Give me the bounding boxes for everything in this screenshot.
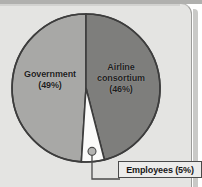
pie-label-airline-consortium-name-line2: consortium — [92, 73, 150, 84]
pie-label-airline-consortium-value: (46%) — [92, 84, 150, 95]
pie-callout-employees: Employees (5%) — [118, 161, 202, 178]
pie-label-government: Government (49%) — [14, 69, 86, 91]
pie-label-airline-consortium-name-line1: Airline — [92, 62, 150, 73]
pie-label-airline-consortium: Airline consortium (46%) — [92, 62, 150, 95]
callout-marker-dot — [88, 147, 96, 155]
pie-label-government-value: (49%) — [14, 80, 86, 91]
pie-label-government-name: Government — [14, 69, 86, 80]
pie-callout-employees-label: Employees (5%) — [126, 165, 194, 175]
pie-chart-figure: Government (49%) Airline consortium (46%… — [0, 0, 202, 187]
